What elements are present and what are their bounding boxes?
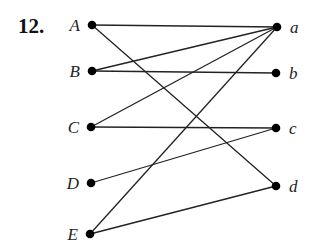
edge-C-c bbox=[91, 127, 276, 128]
vertex-C bbox=[87, 123, 96, 132]
vertex-label-A: A bbox=[69, 16, 81, 35]
vertex-D bbox=[87, 179, 96, 188]
vertex-label-d: d bbox=[289, 177, 298, 196]
vertex-E bbox=[86, 230, 95, 239]
edge-E-d bbox=[90, 186, 276, 234]
edges-group bbox=[90, 25, 277, 234]
vertex-b bbox=[272, 69, 281, 78]
problem-number: 12. bbox=[18, 14, 44, 38]
vertex-label-B: B bbox=[70, 62, 81, 81]
bipartite-graph-figure: 12. ABCDEabcd bbox=[0, 0, 325, 246]
bipartite-graph: 12. ABCDEabcd bbox=[0, 0, 325, 246]
vertex-label-E: E bbox=[67, 225, 79, 244]
vertex-label-a: a bbox=[290, 18, 299, 37]
vertex-A bbox=[88, 21, 97, 30]
vertex-a bbox=[273, 23, 282, 32]
edge-D-c bbox=[91, 128, 276, 183]
vertex-label-c: c bbox=[289, 119, 297, 138]
vertex-c bbox=[272, 124, 281, 133]
vertex-label-D: D bbox=[66, 174, 80, 193]
edge-A-a bbox=[92, 25, 277, 27]
vertex-d bbox=[272, 182, 281, 191]
edge-E-a bbox=[90, 27, 277, 234]
edge-B-b bbox=[92, 71, 276, 73]
vertex-label-C: C bbox=[68, 118, 80, 137]
vertex-label-b: b bbox=[289, 64, 298, 83]
edge-C-a bbox=[91, 27, 277, 127]
vertex-B bbox=[88, 67, 97, 76]
